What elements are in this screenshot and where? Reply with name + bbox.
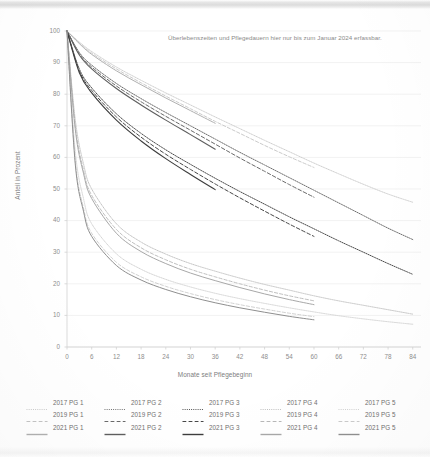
legend-item-2017-pg-5[interactable]: 2017 PG 5 [338, 399, 416, 406]
legend-label: 2017 PG 2 [131, 399, 162, 406]
x-tick-84: 84 [403, 353, 423, 360]
legend-label: 2019 PG 5 [365, 411, 396, 418]
legend-label: 2021 PG 5 [365, 424, 396, 431]
y-tick-10: 10 [38, 311, 60, 318]
legend-label: 2017 PG 3 [209, 399, 240, 406]
y-tick-70: 70 [38, 122, 60, 129]
series-line-2019-pg-3 [67, 31, 314, 236]
legend-swatch-icon [26, 411, 48, 418]
legend-item-2021-pg-2[interactable]: 2021 PG 2 [104, 424, 182, 431]
legend-item-2021-pg-4[interactable]: 2021 PG 4 [260, 424, 338, 431]
legend-item-2017-pg-2[interactable]: 2017 PG 2 [104, 399, 182, 406]
series-line-2019-pg-2 [67, 31, 314, 197]
x-tick-36: 36 [205, 353, 225, 360]
x-tick-30: 30 [180, 353, 200, 360]
series-line-2017-pg-4 [67, 31, 413, 314]
series-line-2017-pg-1 [67, 31, 413, 202]
legend-swatch-icon [338, 399, 360, 406]
legend-item-2019-pg-4[interactable]: 2019 PG 4 [260, 411, 338, 418]
legend-item-2021-pg-5[interactable]: 2021 PG 5 [338, 424, 416, 431]
x-tick-24: 24 [156, 353, 176, 360]
y-tick-50: 50 [38, 185, 60, 192]
legend-item-2021-pg-3[interactable]: 2021 PG 3 [182, 424, 260, 431]
x-tick-54: 54 [279, 353, 299, 360]
series-line-2019-pg-1 [67, 31, 314, 168]
legend-label: 2019 PG 3 [209, 411, 240, 418]
legend-item-2019-pg-1[interactable]: 2019 PG 1 [26, 411, 104, 418]
legend-swatch-icon [260, 424, 282, 431]
series-line-2019-pg-4 [67, 31, 314, 301]
legend-label: 2017 PG 1 [53, 399, 84, 406]
legend-label: 2021 PG 2 [131, 424, 162, 431]
legend-label: 2017 PG 5 [365, 399, 396, 406]
legend-swatch-icon [26, 399, 48, 406]
legend-item-2019-pg-2[interactable]: 2019 PG 2 [104, 411, 182, 418]
legend-swatch-icon [182, 399, 204, 406]
chart-annotation: Überlebenszeiten und Pflegedauern hier n… [168, 33, 426, 42]
x-tick-42: 42 [230, 353, 250, 360]
x-tick-0: 0 [57, 353, 77, 360]
y-tick-90: 90 [38, 58, 60, 65]
legend-item-2017-pg-1[interactable]: 2017 PG 1 [26, 399, 104, 406]
legend-swatch-icon [338, 411, 360, 418]
legend-swatch-icon [104, 424, 126, 431]
chart-legend: 2017 PG 12017 PG 22017 PG 32017 PG 42017… [26, 396, 416, 438]
legend-row-2021: 2021 PG 12021 PG 22021 PG 32021 PG 42021… [26, 421, 416, 434]
legend-swatch-icon [260, 399, 282, 406]
series-line-2021-pg-1 [67, 31, 215, 123]
legend-item-2021-pg-1[interactable]: 2021 PG 1 [26, 424, 104, 431]
axis-lines [65, 31, 422, 350]
legend-swatch-icon [260, 411, 282, 418]
x-tick-18: 18 [131, 353, 151, 360]
legend-swatch-icon [104, 399, 126, 406]
legend-label: 2019 PG 1 [53, 411, 84, 418]
y-tick-100: 100 [38, 27, 60, 34]
legend-swatch-icon [104, 411, 126, 418]
legend-item-2019-pg-5[interactable]: 2019 PG 5 [338, 411, 416, 418]
x-tick-66: 66 [329, 353, 349, 360]
y-axis-title: Anteil in Prozent [14, 136, 21, 216]
legend-swatch-icon [338, 424, 360, 431]
legend-label: 2017 PG 4 [287, 399, 318, 406]
legend-row-2017: 2017 PG 12017 PG 22017 PG 32017 PG 42017… [26, 396, 416, 409]
legend-item-2019-pg-3[interactable]: 2019 PG 3 [182, 411, 260, 418]
x-tick-60: 60 [304, 353, 324, 360]
y-tick-40: 40 [38, 216, 60, 223]
x-tick-12: 12 [106, 353, 126, 360]
legend-swatch-icon [182, 411, 204, 418]
legend-label: 2021 PG 4 [287, 424, 318, 431]
x-tick-78: 78 [378, 353, 398, 360]
y-tick-0: 0 [38, 343, 60, 350]
x-tick-48: 48 [255, 353, 275, 360]
legend-item-2017-pg-3[interactable]: 2017 PG 3 [182, 399, 260, 406]
x-tick-72: 72 [353, 353, 373, 360]
legend-label: 2019 PG 4 [287, 411, 318, 418]
series-line-2017-pg-5 [67, 31, 413, 324]
y-tick-20: 20 [38, 280, 60, 287]
legend-item-2017-pg-4[interactable]: 2017 PG 4 [260, 399, 338, 406]
x-tick-6: 6 [82, 353, 102, 360]
legend-label: 2019 PG 2 [131, 411, 162, 418]
x-axis-title: Monate seit Pflegebeginn [0, 371, 430, 378]
survival-curve-chart: 0102030405060708090100 06121824303642485… [0, 0, 430, 457]
legend-row-2019: 2019 PG 12019 PG 22019 PG 32019 PG 42019… [26, 409, 416, 422]
legend-label: 2021 PG 1 [53, 424, 84, 431]
series-lines [67, 31, 413, 324]
legend-label: 2021 PG 3 [209, 424, 240, 431]
legend-swatch-icon [182, 424, 204, 431]
legend-swatch-icon [26, 424, 48, 431]
y-tick-80: 80 [38, 90, 60, 97]
y-tick-60: 60 [38, 153, 60, 160]
y-tick-30: 30 [38, 248, 60, 255]
plot-canvas [0, 0, 430, 457]
